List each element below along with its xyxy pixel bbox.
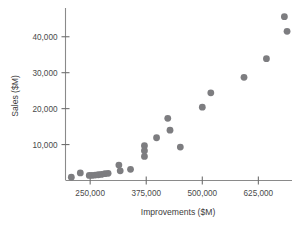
x-tick-label: 250,000: [75, 189, 105, 198]
y-tick-label: 20,000: [32, 105, 57, 114]
x-tick-label: 500,000: [187, 189, 217, 198]
data-point: [177, 144, 184, 151]
x-tick-label: 375,000: [131, 189, 161, 198]
data-point: [127, 166, 134, 173]
scatter-plot-canvas: 10,00020,00030,00040,000 250,000375,0005…: [0, 0, 299, 226]
x-axis-tick-labels: 250,000375,000500,000625,000: [75, 189, 273, 198]
x-tick-label: 625,000: [244, 189, 274, 198]
data-point: [281, 13, 288, 20]
data-point: [77, 170, 84, 177]
data-point: [284, 28, 291, 35]
data-point: [105, 170, 112, 177]
y-tick-label: 30,000: [32, 69, 57, 78]
data-point: [153, 134, 160, 141]
data-point: [141, 153, 148, 160]
axis-lines: [66, 8, 293, 181]
data-point: [68, 174, 75, 181]
x-axis-title: Improvements ($M): [141, 207, 216, 217]
scatter-chart-figure: 10,00020,00030,00040,000 250,000375,0005…: [0, 0, 299, 226]
data-point: [117, 167, 124, 174]
data-point-group: [68, 13, 291, 180]
data-point: [199, 104, 206, 111]
y-tick-label: 40,000: [32, 33, 57, 42]
data-point: [263, 55, 270, 62]
data-point: [207, 89, 214, 96]
y-axis-tick-labels: 10,00020,00030,00040,000: [32, 33, 57, 150]
y-axis-title: Sales ($M): [10, 75, 20, 117]
data-point: [115, 162, 122, 169]
y-tick-label: 10,000: [32, 141, 57, 150]
data-point: [167, 127, 174, 134]
data-point: [241, 74, 248, 81]
data-point: [164, 115, 171, 122]
